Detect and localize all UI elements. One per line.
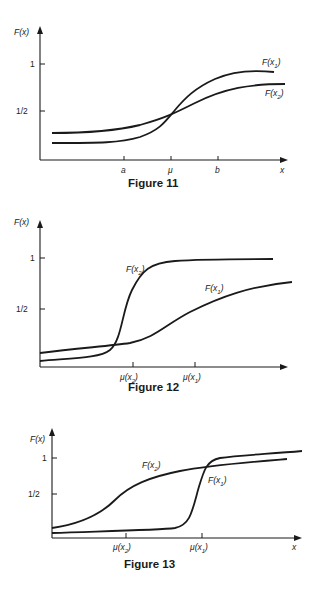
x-tick-mu-x2: μ(x2) xyxy=(113,542,131,554)
figure-11: F(x) 1 1/2 a μ b x F(x1) F(x2) Figure 11 xyxy=(0,0,314,200)
x-tick-b: b xyxy=(215,165,220,175)
curve-f-x2 xyxy=(40,259,273,361)
curve-label-f-x2: F(x2) xyxy=(265,88,283,100)
figure-13: F(x) 1 1/2 μ(x2) μ(x1) x F(x2) F(x1) Fig… xyxy=(0,400,314,589)
curve-label-f-x2: F(x2) xyxy=(142,460,160,472)
figure-caption: Figure 11 xyxy=(128,177,179,189)
x-axis-label: x xyxy=(280,165,284,175)
x-tick-mu-x1: μ(x1) xyxy=(183,372,201,384)
curve-f-x1 xyxy=(52,451,302,533)
figure-12-plot xyxy=(0,200,314,400)
figure-11-plot xyxy=(0,0,314,200)
y-tick-half: 1/2 xyxy=(16,304,28,314)
curve-label-f-x1: F(x1) xyxy=(208,475,226,487)
y-tick-half: 1/2 xyxy=(16,106,28,116)
x-tick-mu-x1: μ(x1) xyxy=(190,542,208,554)
y-tick-1: 1 xyxy=(30,59,35,69)
y-axis-label: F(x) xyxy=(14,217,29,227)
curve-label-f-x1: F(x1) xyxy=(262,57,280,69)
x-axis-arrow-icon xyxy=(280,157,288,163)
x-axis-arrow-icon xyxy=(280,364,288,370)
x-tick-a: a xyxy=(121,165,126,175)
figure-caption: Figure 13 xyxy=(124,558,175,570)
curve-f-x2 xyxy=(52,459,287,528)
x-axis-label: x xyxy=(292,542,296,552)
curve-label-f-x2: F(x2) xyxy=(126,264,144,276)
y-axis-arrow-icon xyxy=(37,220,43,228)
x-axis-arrow-icon xyxy=(294,535,302,541)
y-axis-arrow-icon xyxy=(49,428,55,436)
y-axis-label: F(x) xyxy=(14,27,29,37)
figure-caption: Figure 12 xyxy=(128,381,179,393)
curve-f-x2 xyxy=(52,84,285,133)
figure-12: F(x) 1 1/2 μ(x2) μ(x1) F(x2) F(x1) Figur… xyxy=(0,200,314,400)
x-tick-mu: μ xyxy=(168,165,173,175)
curve-label-f-x1: F(x1) xyxy=(205,283,223,295)
y-tick-1: 1 xyxy=(42,453,47,463)
curve-f-x1 xyxy=(40,282,292,353)
y-tick-half: 1/2 xyxy=(28,489,40,499)
y-axis-arrow-icon xyxy=(37,26,43,34)
y-tick-1: 1 xyxy=(30,253,35,263)
y-axis-label: F(x) xyxy=(30,434,45,444)
